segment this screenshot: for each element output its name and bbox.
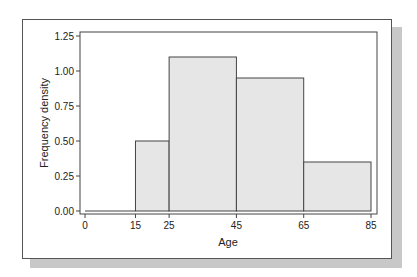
x-tick-label: 15	[130, 220, 142, 231]
y-tick-label: 0.75	[55, 101, 75, 112]
x-tick-label: 65	[298, 220, 310, 231]
histogram-bar	[236, 78, 303, 211]
bars-group	[85, 57, 371, 211]
y-tick-label: 0.25	[55, 171, 75, 182]
y-tick-label: 1.25	[55, 31, 75, 42]
y-axis: 0.000.250.500.751.001.25	[55, 31, 80, 217]
y-tick-label: 0.50	[55, 136, 75, 147]
x-axis: 01525456585	[82, 214, 377, 231]
x-tick-label: 0	[82, 220, 88, 231]
x-tick-label: 45	[231, 220, 243, 231]
histogram-bar	[169, 57, 236, 211]
y-tick-label: 1.00	[55, 66, 75, 77]
x-tick-label: 85	[365, 220, 377, 231]
y-tick-label: 0.00	[55, 206, 75, 217]
histogram-bar	[135, 141, 169, 211]
y-axis-title: Frequency density	[38, 78, 50, 168]
histogram-bar	[304, 162, 371, 211]
x-tick-label: 25	[164, 220, 176, 231]
x-axis-title: Age	[218, 236, 238, 248]
histogram-chart: 0.000.250.500.751.001.25 01525456585 Age…	[0, 0, 417, 277]
